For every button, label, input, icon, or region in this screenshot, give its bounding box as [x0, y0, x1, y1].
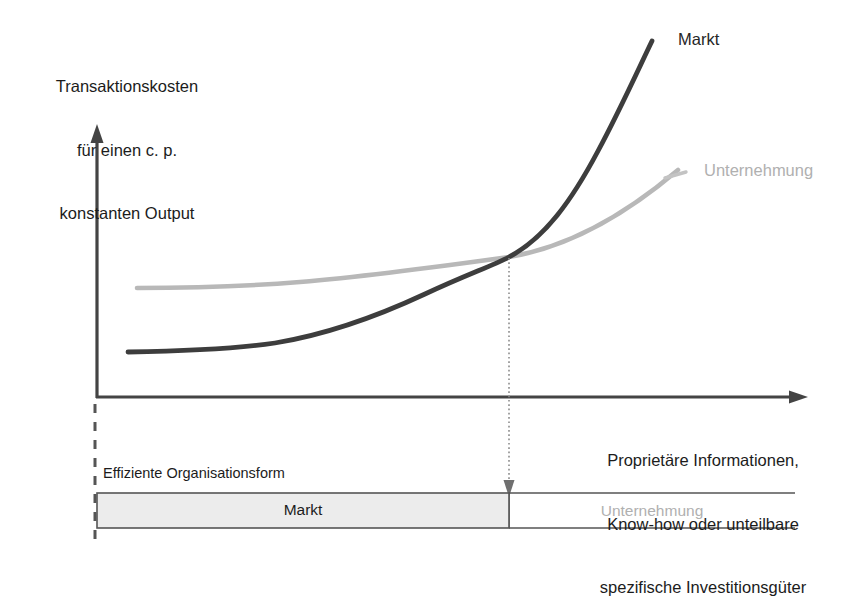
x-axis-label-line-1: Proprietäre Informationen,: [548, 450, 858, 471]
y-axis-label-line-3: konstanten Output: [12, 203, 242, 224]
intersection-dropline-group: [504, 258, 515, 528]
x-axis-label-line-3: spezifische Investitionsgüter: [548, 577, 858, 598]
y-axis-label-line-2: für einen c. p.: [12, 140, 242, 161]
curve-label-unternehmung: Unternehmung: [704, 160, 813, 181]
bar-label-unternehmung: Unternehmung: [509, 501, 795, 521]
x-axis-arrowhead: [789, 391, 808, 404]
y-axis-label: Transaktionskosten für einen c. p. konst…: [12, 34, 242, 266]
efficient-form-caption: Effiziente Organisationsform: [103, 464, 285, 483]
curve-label-markt: Markt: [678, 29, 719, 50]
bar-label-markt: Markt: [97, 500, 509, 520]
y-axis-label-line-1: Transaktionskosten: [12, 76, 242, 97]
